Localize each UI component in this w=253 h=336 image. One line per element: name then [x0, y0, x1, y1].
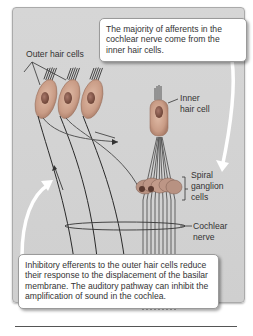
label-inner-hair-cell-line1: Inner — [180, 93, 200, 103]
white-arrow-efferent — [22, 185, 48, 256]
arrowhead-icon — [216, 160, 229, 172]
label-spiral-line2: ganglion — [191, 181, 224, 191]
label-spiral-line3: cells — [191, 192, 208, 202]
label-inner-hair-cell-line2: hair cell — [180, 104, 210, 114]
efferents-text: Inhibitory efferents to the outer hair c… — [25, 260, 208, 301]
afferents-callout: The majority of afferents in the cochlea… — [99, 18, 247, 62]
label-cochlear-line1: Cochlear — [193, 221, 227, 231]
label-cochlear-line2: nerve — [193, 232, 215, 242]
bracket-icon — [182, 177, 188, 200]
afferent-from-outer — [43, 118, 140, 190]
inner-hair-cell — [150, 85, 178, 136]
divider-rule — [15, 326, 237, 327]
afferents-text: The majority of afferents in the cochlea… — [106, 24, 222, 55]
label-spiral-line1: Spiral — [191, 170, 213, 180]
arrowhead-icon — [112, 139, 118, 145]
outer-hair-cells — [31, 77, 107, 121]
white-arrow-afferent — [222, 60, 233, 168]
efferents-callout: Inhibitory efferents to the outer hair c… — [18, 254, 219, 309]
spiral-ganglion-cells — [136, 178, 182, 194]
label-outer-hair-cells: Outer hair cells — [26, 49, 84, 59]
